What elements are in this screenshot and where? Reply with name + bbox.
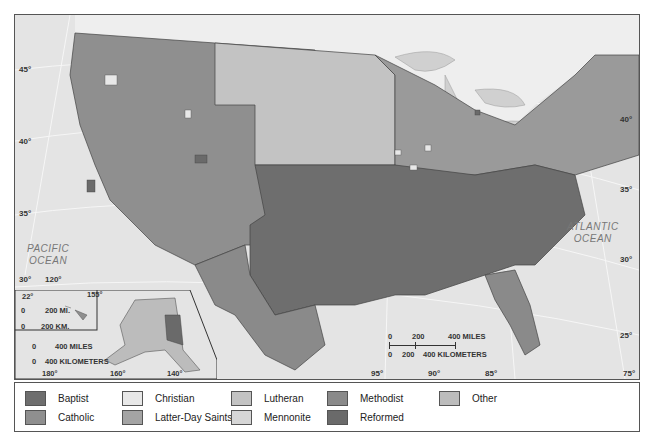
legend-label: Mennonite (264, 412, 311, 423)
scale-mi-0: 0 (388, 332, 392, 341)
alaska-scale-km-0: 0 (32, 357, 36, 366)
inset-alaska-hawaii: 22° 155° 0 200 MI. 0 200 KM. 0 400 MILES… (15, 290, 217, 379)
catholic-swatch (25, 410, 46, 425)
lon-85-label: 85° (485, 369, 497, 378)
legend-label: Methodist (360, 393, 403, 404)
other-swatch (439, 391, 460, 406)
lutheran-swatch (231, 391, 252, 406)
latter-day-saints-swatch (122, 410, 143, 425)
baptist-swatch (25, 391, 46, 406)
methodist-swatch (327, 391, 348, 406)
alaska-lon-140: 140° (167, 369, 183, 378)
lat-25-right-label: 25° (620, 331, 632, 340)
legend-label: Baptist (58, 393, 89, 404)
alaska-scale-mi-400: 400 MILES (55, 342, 93, 351)
lat-30-label: 30° (19, 275, 31, 284)
legend-label: Christian (155, 393, 194, 404)
alaska-lon-180: 180° (42, 369, 58, 378)
lat-35-right-label: 35° (620, 185, 632, 194)
lat-40-right-label: 40° (620, 115, 632, 124)
legend-label: Reformed (360, 412, 404, 423)
legend-item-latter-day-saints: Latter-Day Saints (122, 410, 232, 425)
legend-item-christian: Christian (122, 391, 194, 406)
lat-30-right-label: 30° (620, 255, 632, 264)
legend-item-catholic: Catholic (25, 410, 94, 425)
lat-40-label: 40° (19, 137, 31, 146)
legend-item-mennonite: Mennonite (231, 410, 311, 425)
scale-km-0: 0 (388, 350, 392, 359)
legend-item-reformed: Reformed (327, 410, 404, 425)
scale-km-200: 200 (402, 350, 415, 359)
legend-label: Catholic (58, 412, 94, 423)
scale-km-400: 400 KILOMETERS (423, 350, 487, 359)
lon-90-label: 90° (428, 369, 440, 378)
legend-item-methodist: Methodist (327, 391, 403, 406)
hawaii-lon-label: 155° (87, 290, 103, 299)
lon-75-label: 75° (623, 369, 635, 378)
scale-mi-400: 400 MILES (448, 332, 486, 341)
christian-swatch (122, 391, 143, 406)
legend-label: Latter-Day Saints (155, 412, 232, 423)
alaska-scale-km-400: 400 KILOMETERS (45, 357, 109, 366)
hawaii-scale-mi-0: 0 (21, 306, 25, 315)
legend-item-lutheran: Lutheran (231, 391, 303, 406)
alaska-lon-160: 160° (110, 369, 126, 378)
scale-mi-200: 200 (412, 332, 425, 341)
legend-label: Other (472, 393, 497, 404)
hawaii-scale-km-0: 0 (21, 322, 25, 331)
southern-states (250, 165, 585, 315)
alaska-scale-mi-0: 0 (32, 342, 36, 351)
hawaii-scale-km-200: 200 KM. (41, 322, 69, 331)
lat-35-label: 35° (19, 209, 31, 218)
florida (485, 270, 540, 355)
legend: Baptist Catholic Christian Latter-Day Sa… (14, 382, 640, 432)
pacific-ocean-label: PACIFICOCEAN (27, 243, 69, 267)
lon-95-label: 95° (371, 369, 383, 378)
hawaii-lat-label: 22° (22, 292, 33, 301)
hawaii-scale-mi-200: 200 MI. (45, 306, 70, 315)
legend-item-baptist: Baptist (25, 391, 89, 406)
reformed-swatch (327, 410, 348, 425)
lat-45-label: 45° (19, 65, 31, 74)
atlantic-ocean-label: ATLANTICOCEAN (567, 221, 619, 245)
map-frame: 22° 155° 0 200 MI. 0 200 KM. 0 400 MILES… (14, 14, 640, 380)
legend-label: Lutheran (264, 393, 303, 404)
lon-120-label: 120° (45, 275, 62, 284)
mennonite-swatch (231, 410, 252, 425)
legend-item-other: Other (439, 391, 497, 406)
